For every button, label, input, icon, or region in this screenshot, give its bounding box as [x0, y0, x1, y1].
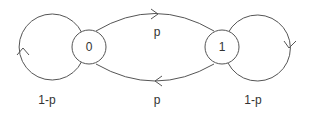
state-node-1: 1 — [205, 30, 239, 64]
edge-1-to-0-label: p — [154, 93, 161, 107]
self-loop-1-label: 1-p — [244, 93, 262, 107]
markov-chain-diagram: 0 1 p p 1-p 1-p — [0, 0, 311, 115]
state-node-0-label: 0 — [86, 40, 93, 54]
state-node-1-label: 1 — [219, 40, 226, 54]
edge-1-to-0-path — [96, 64, 214, 81]
state-node-0: 0 — [72, 30, 106, 64]
self-loop-0-label: 1-p — [38, 93, 56, 107]
edge-1-to-0 — [96, 64, 214, 86]
edge-0-to-1-label: p — [154, 25, 161, 39]
